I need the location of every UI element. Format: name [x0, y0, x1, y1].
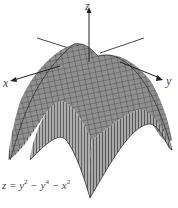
x-arrow-icon — [10, 77, 17, 82]
x-axis-label: x — [3, 77, 8, 89]
surface-plot — [0, 0, 178, 208]
y-arrow-icon — [156, 75, 163, 81]
z-axis-label: z — [85, 0, 90, 12]
eq-part: − x — [49, 179, 67, 191]
eq-part: z = y — [2, 179, 24, 191]
eq-exp: 2 — [67, 178, 71, 186]
equation-label: z = y2 − y4 − x2 — [2, 178, 70, 191]
eq-part: − y — [28, 179, 46, 191]
y-axis-label: y — [166, 75, 171, 87]
